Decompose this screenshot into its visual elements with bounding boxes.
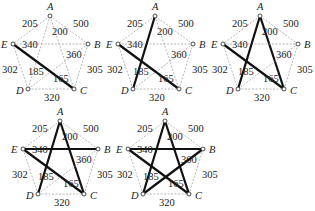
node-c bbox=[82, 192, 86, 196]
node-label-a: A bbox=[151, 1, 159, 12]
weight-label-ac: 200 bbox=[157, 26, 173, 37]
weight-label-dc: 320 bbox=[54, 197, 70, 208]
node-label-a: A bbox=[256, 1, 264, 12]
node-label-e: E bbox=[10, 144, 18, 155]
weight-label-ec: 165 bbox=[158, 73, 174, 84]
node-label-b: B bbox=[304, 39, 311, 50]
weight-label-dc: 320 bbox=[254, 92, 270, 103]
weight-label-ac: 200 bbox=[62, 131, 78, 142]
node-label-a: A bbox=[161, 106, 169, 117]
weight-label-ed: 302 bbox=[2, 64, 18, 75]
node-label-d: D bbox=[130, 190, 139, 201]
node-label-d: D bbox=[120, 85, 129, 96]
node-b bbox=[201, 147, 205, 151]
weight-label-ad: 185 bbox=[133, 66, 149, 77]
graph-svg: 205500200340360302185165305320ABCDE bbox=[0, 0, 105, 105]
node-c bbox=[72, 87, 76, 91]
node-label-b: B bbox=[209, 144, 216, 155]
node-b bbox=[96, 147, 100, 151]
node-d bbox=[26, 87, 30, 91]
weight-label-ac: 200 bbox=[52, 26, 68, 37]
node-a bbox=[58, 119, 62, 123]
weight-label-dc: 320 bbox=[44, 92, 60, 103]
node-c bbox=[187, 192, 191, 196]
node-label-e: E bbox=[0, 39, 8, 50]
node-a bbox=[48, 14, 52, 18]
weight-label-eb: 340 bbox=[22, 39, 38, 50]
graph-svg: 205500200340360302185165305320ABCDE bbox=[105, 0, 210, 105]
weight-label-bc: 305 bbox=[87, 64, 103, 75]
weight-label-ae: 205 bbox=[232, 18, 248, 29]
node-label-c: C bbox=[185, 85, 193, 96]
node-e bbox=[11, 42, 15, 46]
weight-label-dc: 320 bbox=[159, 197, 175, 208]
node-a bbox=[153, 14, 157, 18]
weight-label-ac: 200 bbox=[262, 26, 278, 37]
graph-panel-5: 205500200340360302185165305320ABCDE bbox=[115, 105, 220, 210]
weight-label-db: 360 bbox=[66, 49, 82, 60]
graph-panel-4: 205500200340360302185165305320ABCDE bbox=[10, 105, 115, 210]
graph-panel-3: 205500200340360302185165305320ABCDE bbox=[210, 0, 315, 105]
node-c bbox=[282, 87, 286, 91]
weight-label-db: 360 bbox=[171, 49, 187, 60]
node-d bbox=[131, 87, 135, 91]
node-d bbox=[141, 192, 145, 196]
node-d bbox=[236, 87, 240, 91]
weight-label-ab: 500 bbox=[73, 18, 89, 29]
weight-label-ad: 185 bbox=[143, 171, 159, 182]
weight-label-ae: 205 bbox=[137, 123, 153, 134]
node-a bbox=[258, 14, 262, 18]
node-b bbox=[86, 42, 90, 46]
weight-label-ab: 500 bbox=[188, 123, 204, 134]
node-label-d: D bbox=[15, 85, 24, 96]
node-e bbox=[126, 147, 130, 151]
weight-label-bc: 305 bbox=[297, 64, 313, 75]
node-label-c: C bbox=[80, 85, 88, 96]
node-label-c: C bbox=[290, 85, 298, 96]
weight-label-ab: 500 bbox=[283, 18, 299, 29]
node-c bbox=[177, 87, 181, 91]
node-label-a: A bbox=[46, 1, 54, 12]
node-e bbox=[21, 147, 25, 151]
weight-label-eb: 340 bbox=[127, 39, 143, 50]
weight-label-bc: 305 bbox=[192, 64, 208, 75]
weight-label-ed: 302 bbox=[12, 169, 28, 180]
node-label-e: E bbox=[115, 144, 123, 155]
weight-label-eb: 340 bbox=[232, 39, 248, 50]
node-label-a: A bbox=[56, 106, 64, 117]
weight-label-dc: 320 bbox=[149, 92, 165, 103]
weight-label-ae: 205 bbox=[22, 18, 38, 29]
node-label-e: E bbox=[210, 39, 218, 50]
node-e bbox=[221, 42, 225, 46]
weight-label-ac: 200 bbox=[167, 131, 183, 142]
weight-label-ae: 205 bbox=[32, 123, 48, 134]
node-label-e: E bbox=[105, 39, 113, 50]
graph-panel-1: 205500200340360302185165305320ABCDE bbox=[0, 0, 105, 105]
graph-svg: 205500200340360302185165305320ABCDE bbox=[10, 105, 115, 210]
node-d bbox=[36, 192, 40, 196]
node-label-c: C bbox=[195, 190, 203, 201]
node-label-c: C bbox=[90, 190, 98, 201]
weight-label-ae: 205 bbox=[127, 18, 143, 29]
weight-label-ad: 185 bbox=[28, 66, 44, 77]
weight-label-ad: 185 bbox=[38, 171, 54, 182]
node-label-b: B bbox=[199, 39, 206, 50]
weight-label-ad: 185 bbox=[238, 66, 254, 77]
weight-label-db: 360 bbox=[76, 154, 92, 165]
weight-label-bc: 305 bbox=[202, 169, 218, 180]
node-label-b: B bbox=[104, 144, 111, 155]
node-e bbox=[116, 42, 120, 46]
node-label-d: D bbox=[225, 85, 234, 96]
weight-label-eb: 340 bbox=[137, 144, 153, 155]
weight-label-db: 360 bbox=[181, 154, 197, 165]
weight-label-bc: 305 bbox=[97, 169, 113, 180]
node-a bbox=[163, 119, 167, 123]
weight-label-ab: 500 bbox=[178, 18, 194, 29]
weight-label-ec: 165 bbox=[53, 73, 69, 84]
weight-label-ed: 302 bbox=[212, 64, 228, 75]
weight-label-eb: 340 bbox=[32, 144, 48, 155]
node-label-b: B bbox=[94, 39, 101, 50]
weight-label-ed: 302 bbox=[117, 169, 133, 180]
graph-svg: 205500200340360302185165305320ABCDE bbox=[210, 0, 315, 105]
graph-svg: 205500200340360302185165305320ABCDE bbox=[115, 105, 220, 210]
